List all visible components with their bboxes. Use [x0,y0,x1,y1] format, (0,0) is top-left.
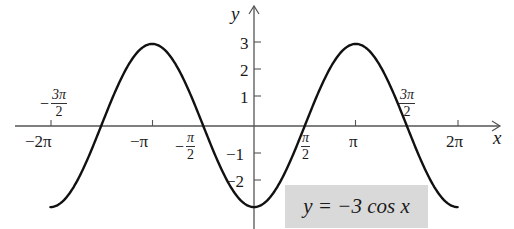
x-tick-label-neg-3pi-over-2: − 3π2 [40,88,67,119]
y-tick-label-3: 3 [240,35,249,52]
x-tick-label-neg-2pi: −2π [25,133,52,150]
x-tick-label-2pi: 2π [446,133,463,150]
y-ticks [254,42,261,180]
x-tick-label-pi: π [349,133,358,150]
y-tick-label-1: 1 [240,89,249,106]
y-tick-label-neg2: −2 [226,173,244,190]
equation-label-box: y = −3 cos x [285,185,428,228]
y-tick-label-2: 2 [240,62,249,79]
plot-area [0,0,514,229]
equation-label: y = −3 cos x [303,194,409,219]
x-tick-label-3pi-over-2: 3π2 [399,88,415,119]
y-axis-label: y [231,4,239,23]
x-tick-label-neg-pi: −π [130,133,148,150]
x-tick-label-neg-pi-over-2: − π2 [175,131,195,162]
y-tick-label-neg1: −1 [226,146,244,163]
x-axis-label: x [493,128,501,147]
x-tick-label-pi-over-2: π2 [301,131,310,162]
